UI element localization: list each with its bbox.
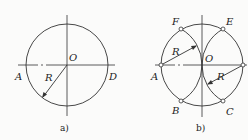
- label-b-R2: R: [216, 71, 225, 82]
- label-a-O: O: [69, 52, 77, 63]
- point-C: [221, 99, 225, 103]
- point-A: [159, 63, 163, 67]
- label-a-A: A: [14, 71, 22, 82]
- diagram-stage: A O D R a): [0, 0, 248, 140]
- label-b-E: E: [225, 16, 234, 27]
- radius-line-b2: [208, 65, 243, 84]
- caption-b: b): [196, 123, 205, 133]
- figure-b: F E A O B C R R b): [150, 15, 247, 133]
- caption-a: a): [60, 123, 69, 133]
- label-b-A: A: [150, 71, 158, 82]
- label-a-R: R: [44, 72, 53, 83]
- arrowhead-icon: [207, 80, 213, 85]
- label-a-D: D: [108, 71, 117, 82]
- label-b-F: F: [171, 16, 180, 27]
- arrowhead-icon: [191, 46, 197, 51]
- label-b-B: B: [171, 105, 179, 116]
- label-b-O: O: [205, 53, 213, 64]
- geometry-figure: A O D R a): [0, 0, 248, 140]
- point-D: [241, 63, 245, 67]
- label-b-R1: R: [171, 46, 180, 57]
- figure-a: A O D R a): [14, 15, 117, 133]
- label-b-C: C: [226, 106, 234, 117]
- point-B: [179, 99, 183, 103]
- point-E: [221, 27, 225, 31]
- point-F: [179, 27, 183, 31]
